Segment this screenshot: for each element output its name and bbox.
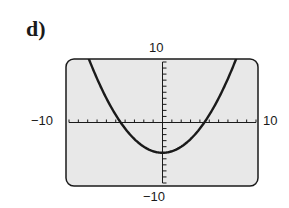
graph-window: [0, 0, 289, 208]
